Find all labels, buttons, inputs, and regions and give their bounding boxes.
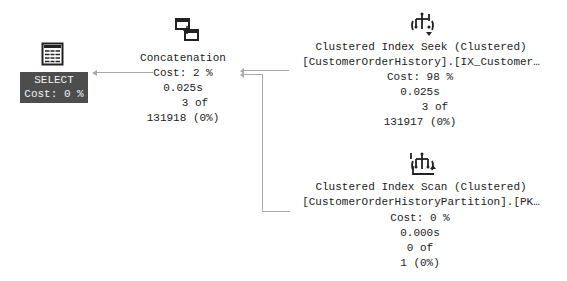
seek-label: Clustered Index Seek (Clustered) (290, 40, 552, 56)
select-cost: Cost: 0 % (20, 87, 88, 101)
arrow-icon (92, 70, 97, 76)
select-label: SELECT (20, 73, 88, 87)
connector-seek-concat (244, 70, 289, 71)
concatenation-estimate: 131918 (0%) (128, 111, 238, 127)
concatenation-cost: Cost: 2 % (128, 66, 238, 82)
arrow-icon (240, 72, 244, 78)
clustered-index-scan-icon (409, 151, 439, 177)
result-table-icon (41, 42, 65, 66)
scan-cost: Cost: 0 % (370, 211, 470, 227)
seek-object: [CustomerOrderHistory].[IX_Customer… (290, 55, 552, 71)
scan-time: 0.000s (370, 226, 470, 242)
seek-estimate: 131917 (0%) (370, 115, 470, 131)
concatenation-icon (174, 17, 200, 43)
scan-rows: 0 of (370, 241, 470, 257)
clustered-index-seek-icon (410, 11, 438, 37)
scan-label: Clustered Index Scan (Clustered) (290, 180, 552, 196)
concatenation-time: 0.025s (128, 81, 238, 97)
concatenation-label: Concatenation (128, 51, 238, 67)
connector-scan-concat-h2 (262, 211, 290, 212)
seek-rows: 3 of (395, 100, 475, 116)
scan-object: [CustomerOrderHistoryPartition].[PK… (290, 195, 552, 211)
concatenation-rows: 3 of (150, 96, 240, 112)
scan-estimate: 1 (0%) (370, 256, 470, 272)
connector-scan-concat-v (262, 74, 263, 212)
connector-scan-concat-h1 (244, 74, 263, 75)
select-label-box: SELECT Cost: 0 % (20, 72, 88, 103)
seek-cost: Cost: 98 % (370, 70, 470, 86)
seek-time: 0.025s (370, 85, 470, 101)
